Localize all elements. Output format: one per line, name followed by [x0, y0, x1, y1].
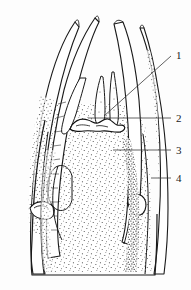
anatomical-drawing-svg: 1 2 3 4 [0, 0, 191, 290]
label-group: 1 2 3 4 [176, 49, 182, 184]
central-spine-right [110, 72, 119, 127]
label-4: 4 [176, 172, 182, 184]
central-spine-left [95, 76, 105, 126]
label-3: 3 [176, 144, 182, 156]
spicule-tips [75, 16, 144, 28]
label-1: 1 [176, 49, 182, 61]
figure-container: 1 2 3 4 [0, 0, 191, 290]
label-2: 2 [176, 112, 182, 124]
